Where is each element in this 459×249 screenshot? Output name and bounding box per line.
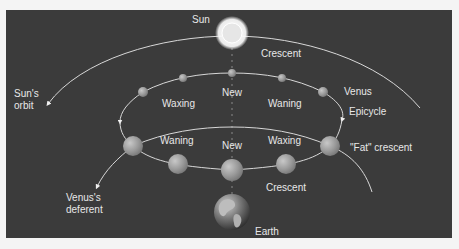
epicycle-path xyxy=(143,73,343,120)
sun-core xyxy=(222,23,242,43)
venus-icon xyxy=(138,87,148,97)
waning-lower-label: Waning xyxy=(160,135,194,146)
venus-icon xyxy=(228,69,236,77)
epicycle-label: Epicycle xyxy=(349,106,386,117)
sun-label: Sun xyxy=(192,14,210,25)
venus-icon xyxy=(276,154,296,174)
waxing-lower-label: Waxing xyxy=(268,135,301,146)
fat-crescent-label: "Fat" crescent xyxy=(350,142,412,153)
earth-label: Earth xyxy=(255,226,279,237)
new-upper-label: New xyxy=(222,87,242,98)
venus-icon xyxy=(221,159,243,181)
venus-icon xyxy=(123,136,143,156)
new-lower-label: New xyxy=(222,140,242,151)
earth-icon xyxy=(214,194,250,230)
crescent-top-label: Crescent xyxy=(261,48,301,59)
crescent-bottom-label: Crescent xyxy=(266,182,306,193)
venus-deferent-label-line1: Venus's xyxy=(66,192,101,203)
venus-icon xyxy=(168,154,188,174)
venus-icon xyxy=(318,87,328,97)
sun-orbit-label-line1: Sun's xyxy=(14,88,39,99)
waxing-upper-label: Waxing xyxy=(162,98,195,109)
sun-orbit-label-line2: orbit xyxy=(14,100,33,111)
venus-label: Venus xyxy=(344,86,372,97)
epicycle-left-path xyxy=(120,92,143,122)
venus-icon xyxy=(179,74,187,82)
venus-icon xyxy=(278,74,286,82)
venus-deferent-label-line2: deferent xyxy=(66,204,103,215)
venus-icon xyxy=(320,136,340,156)
waning-upper-label: Waning xyxy=(268,98,302,109)
